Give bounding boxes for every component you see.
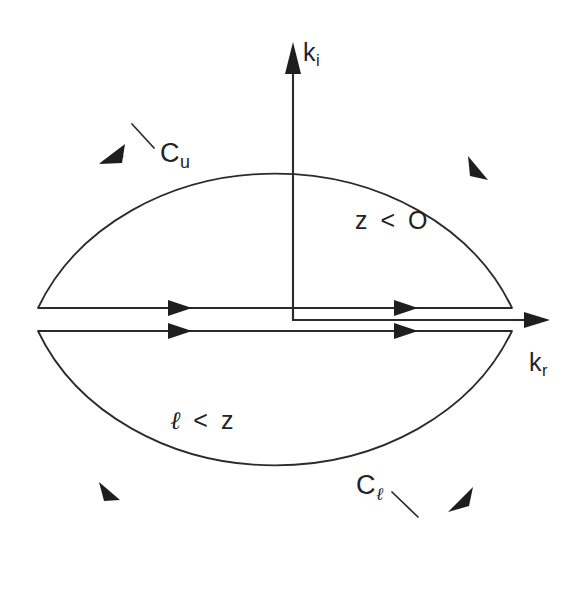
upper-region-label: z < O <box>355 208 430 233</box>
upper-path-arrowhead-left-icon <box>168 300 192 316</box>
upper-contour-label-base: C <box>160 138 180 168</box>
ki-axis-arrowhead-icon <box>285 42 301 74</box>
kr-axis-label: kr <box>529 350 548 379</box>
lower-region-label: ℓ < z <box>170 408 236 433</box>
upper-right-arc-arrowhead-icon <box>468 156 488 180</box>
kr-axis-label-subscript: r <box>542 361 548 379</box>
lower-contour-label-subscript: ℓ <box>376 483 383 504</box>
cu-label-leader-line <box>132 124 154 148</box>
lower-contour-label-base: C <box>356 470 376 500</box>
cl-label-leader-line <box>392 492 418 517</box>
upper-left-arc-arrowhead-fill <box>99 144 125 164</box>
upper-contour-label: Cu <box>160 140 190 172</box>
lower-path-arrowhead-left-icon <box>168 323 192 339</box>
lower-region-label-ell: ℓ <box>170 406 183 435</box>
ki-axis-label-base: k <box>303 38 316 66</box>
lower-right-arc-arrowhead-icon <box>448 487 473 512</box>
contour-diagram-figure: ki kr Cu Cℓ z < O ℓ < z <box>0 0 588 598</box>
lower-path-arrowhead-right-icon <box>394 323 418 339</box>
ki-axis-label: ki <box>303 40 320 69</box>
kr-axis-arrowhead-icon <box>524 312 550 328</box>
contour-diagram-canvas <box>0 0 588 598</box>
lower-contour-label: Cℓ <box>356 472 383 503</box>
upper-path-arrowhead-right-icon <box>394 300 418 316</box>
ki-axis-label-subscript: i <box>316 51 320 69</box>
lower-contour-arc <box>38 331 512 465</box>
upper-contour-arc <box>38 174 512 308</box>
lower-region-label-rest: < z <box>183 406 236 434</box>
upper-contour-label-subscript: u <box>180 152 190 172</box>
lower-left-arc-arrowhead-icon <box>99 482 120 501</box>
kr-axis-label-base: k <box>529 348 542 376</box>
